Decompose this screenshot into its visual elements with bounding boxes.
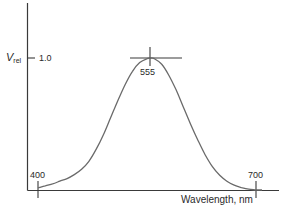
- y-axis-label-sub: rel: [13, 57, 21, 64]
- x-label-400: 400: [30, 171, 45, 180]
- x-axis-label: Wavelength, nm: [181, 195, 253, 205]
- y-axis-label: Vrel: [6, 52, 21, 64]
- x-label-700: 700: [248, 171, 263, 180]
- luminosity-curve: [38, 58, 262, 190]
- peak-label: 555: [140, 68, 155, 77]
- luminosity-chart: [0, 0, 288, 216]
- y-tick-label-1: 1.0: [39, 54, 52, 63]
